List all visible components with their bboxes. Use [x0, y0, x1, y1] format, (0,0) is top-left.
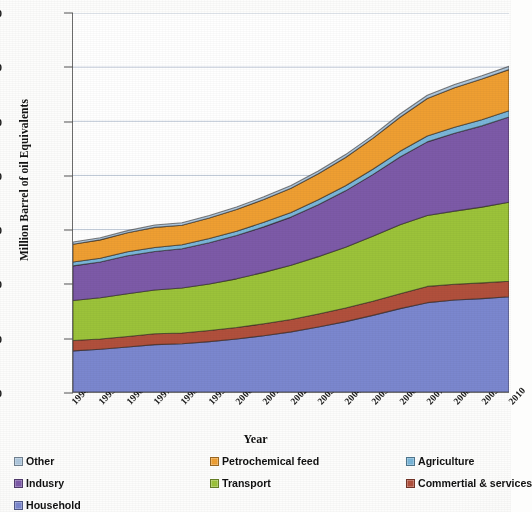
legend-label: Household: [26, 499, 81, 511]
legend-label: Agriculture: [418, 455, 475, 467]
legend-item[interactable]: Indusry: [14, 477, 64, 489]
chart-legend: OtherPetrochemical feedAgricultureIndusr…: [14, 455, 511, 512]
y-tick-mark: [64, 393, 73, 394]
y-tick-mark: [64, 121, 73, 122]
y-tick-mark: [64, 67, 73, 68]
legend-label: Petrochemical feed: [222, 455, 319, 467]
x-tick-label: 2010: [506, 385, 527, 407]
legend-swatch-icon: [406, 457, 415, 466]
legend-item[interactable]: Other: [14, 455, 54, 467]
legend-item[interactable]: Commertial & services: [406, 477, 532, 489]
stacked-area-bands: [73, 13, 509, 392]
y-tick-label: 800: [0, 170, 2, 181]
x-axis-title: Year: [0, 432, 511, 447]
y-axis-title: Million Barrel of oil Equivalents: [18, 60, 30, 300]
legend-item[interactable]: Household: [14, 499, 81, 511]
legend-label: Indusry: [26, 477, 64, 489]
y-tick-label: 600: [0, 225, 2, 236]
legend-item[interactable]: Transport: [210, 477, 271, 489]
y-tick-label: 200: [0, 333, 2, 344]
legend-label: Commertial & services: [418, 477, 532, 489]
legend-label: Transport: [222, 477, 271, 489]
legend-swatch-icon: [14, 457, 23, 466]
y-tick-mark: [64, 13, 73, 14]
plot-area: [72, 13, 509, 393]
y-tick-mark: [64, 175, 73, 176]
legend-item[interactable]: Petrochemical feed: [210, 455, 319, 467]
legend-swatch-icon: [210, 479, 219, 488]
y-tick-mark: [64, 230, 73, 231]
legend-swatch-icon: [14, 479, 23, 488]
y-tick-mark: [64, 338, 73, 339]
y-tick-mark: [64, 284, 73, 285]
legend-swatch-icon: [210, 457, 219, 466]
legend-label: Other: [26, 455, 54, 467]
y-tick-label: 1200: [0, 62, 2, 73]
y-tick-label: 0: [0, 388, 2, 399]
y-tick-label: 1400: [0, 8, 2, 19]
legend-swatch-icon: [14, 501, 23, 510]
y-tick-label: 400: [0, 279, 2, 290]
legend-item[interactable]: Agriculture: [406, 455, 475, 467]
legend-swatch-icon: [406, 479, 415, 488]
y-tick-label: 1000: [0, 116, 2, 127]
